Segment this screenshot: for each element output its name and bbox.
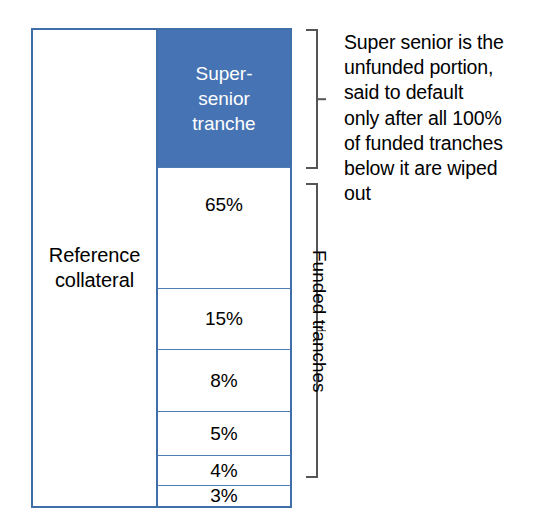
tranche-super-senior-label: Super- senior tranche	[192, 61, 255, 136]
tranche-8-label: 8%	[210, 370, 237, 392]
tranche-3: 3%	[158, 485, 290, 506]
tranche-4: 4%	[158, 455, 290, 485]
tranche-15-label: 15%	[205, 308, 243, 330]
tranche-8: 8%	[158, 349, 290, 411]
funded-tranches-label: Funded tranches	[308, 250, 330, 420]
tranche-3-label: 3%	[210, 485, 237, 507]
reference-collateral-column: Reference collateral	[33, 30, 158, 506]
capital-structure-box: Reference collateral Super- senior tranc…	[31, 28, 292, 508]
tranche-65-label: 65%	[205, 194, 243, 216]
tranche-15: 15%	[158, 288, 290, 349]
reference-collateral-label: Reference collateral	[49, 243, 140, 293]
diagram-canvas: Reference collateral Super- senior tranc…	[0, 0, 551, 527]
tranche-stack: Super- senior tranche 65% 15% 8% 5% 4% 3…	[158, 30, 290, 506]
bracket-super-senior-tick	[317, 98, 326, 100]
tranche-5-label: 5%	[210, 423, 237, 445]
tranche-5: 5%	[158, 411, 290, 455]
tranche-4-label: 4%	[210, 460, 237, 482]
bracket-super-senior	[304, 29, 318, 169]
bracket-funded-arm-bottom	[306, 476, 317, 478]
tranche-65: 65%	[158, 167, 290, 288]
super-senior-annotation: Super senior is the unfunded portion, sa…	[344, 30, 544, 206]
bracket-super-senior-arm-bottom	[306, 167, 317, 169]
tranche-super-senior: Super- senior tranche	[158, 30, 290, 167]
